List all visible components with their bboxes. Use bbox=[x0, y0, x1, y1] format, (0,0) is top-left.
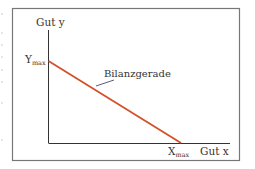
budget-line-label: Bilanzgerade bbox=[104, 68, 171, 79]
y-axis-label: Gut y bbox=[36, 16, 65, 28]
budget-line-diagram: Gut y Ymax Bilanzgerade Xmax Gut x bbox=[0, 0, 255, 169]
x-axis-label: Gut x bbox=[200, 145, 229, 157]
edge-dots bbox=[1, 13, 2, 140]
frame bbox=[13, 9, 240, 161]
